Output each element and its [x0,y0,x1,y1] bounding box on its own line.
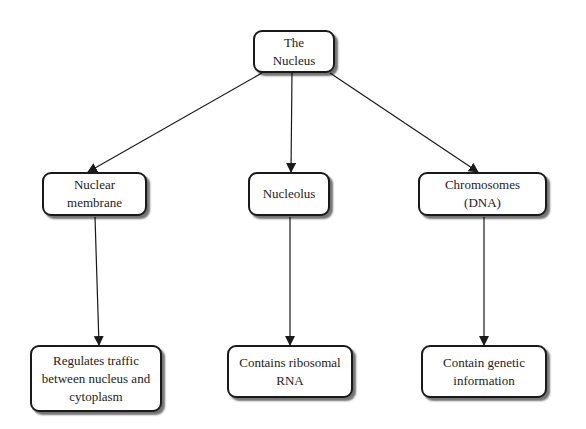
edge-nucleus-to-membrane [88,73,262,172]
node-label: Chromosomes (DNA) [426,176,539,212]
node-label: Regulates traffic between nucleus and cy… [42,352,150,406]
node-nuclear-membrane: Nuclear membrane [42,172,147,216]
node-nucleolus: Nucleolus [248,172,330,216]
node-chromosomes: Chromosomes (DNA) [418,172,547,216]
node-label: Contain genetic information [443,354,525,390]
edge-nucleus-to-nucleolus [291,73,292,172]
node-label: Contains ribosomal RNA [239,354,340,390]
diagram-canvas: The Nucleus Nuclear membrane Nucleolus C… [0,0,586,429]
node-contain-genetic-information: Contain genetic information [421,345,547,398]
node-contains-ribosomal-rna: Contains ribosomal RNA [227,345,353,398]
node-label: Nucleolus [263,185,316,203]
node-regulates-traffic: Regulates traffic between nucleus and cy… [30,345,162,412]
edge-membrane-to-desc [95,217,99,345]
edge-nucleus-to-chromosomes [330,73,478,172]
node-the-nucleus: The Nucleus [253,30,335,73]
node-label: The Nucleus [261,34,327,70]
node-label: Nuclear membrane [50,176,139,212]
